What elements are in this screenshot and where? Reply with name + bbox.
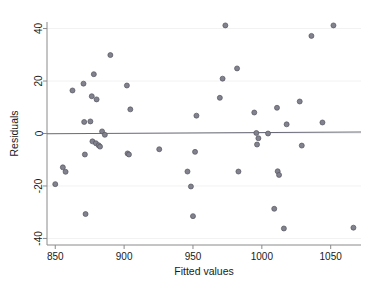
data-point bbox=[94, 97, 99, 102]
x-tick-label: 950 bbox=[185, 251, 202, 262]
data-point bbox=[309, 33, 314, 38]
data-point bbox=[98, 144, 103, 149]
data-point bbox=[299, 143, 304, 148]
y-tick-label: 40 bbox=[34, 23, 45, 35]
data-point bbox=[252, 110, 257, 115]
data-point bbox=[235, 66, 240, 71]
y-axis-title: Residuals bbox=[8, 110, 20, 156]
data-point bbox=[82, 119, 87, 124]
data-point bbox=[89, 94, 94, 99]
data-point bbox=[126, 152, 131, 157]
data-point bbox=[157, 147, 162, 152]
data-point bbox=[351, 225, 356, 230]
data-point bbox=[236, 169, 241, 174]
x-tick-label: 1000 bbox=[251, 251, 274, 262]
x-tick-label: 900 bbox=[116, 251, 133, 262]
data-point bbox=[190, 214, 195, 219]
data-point bbox=[108, 53, 113, 58]
data-point bbox=[297, 99, 302, 104]
data-point bbox=[91, 72, 96, 77]
data-point bbox=[70, 88, 75, 93]
y-tick-label: -20 bbox=[34, 178, 45, 193]
data-point bbox=[63, 169, 68, 174]
data-point bbox=[194, 113, 199, 118]
data-point bbox=[277, 172, 282, 177]
x-tick-label: 1050 bbox=[320, 251, 343, 262]
data-point bbox=[256, 136, 261, 141]
data-point bbox=[60, 165, 65, 170]
data-point bbox=[128, 107, 133, 112]
y-tick-label: -40 bbox=[34, 231, 45, 246]
y-tick-label: 0 bbox=[34, 130, 45, 136]
data-point bbox=[124, 83, 129, 88]
data-point bbox=[266, 131, 271, 136]
data-point bbox=[272, 206, 277, 211]
data-point bbox=[274, 105, 279, 110]
data-point bbox=[188, 184, 193, 189]
data-point bbox=[53, 182, 58, 187]
data-point bbox=[284, 122, 289, 127]
data-point bbox=[83, 212, 88, 217]
data-point bbox=[220, 76, 225, 81]
data-point bbox=[81, 81, 86, 86]
data-point bbox=[217, 95, 222, 100]
data-point bbox=[255, 142, 260, 147]
data-point bbox=[193, 149, 198, 154]
data-point bbox=[82, 152, 87, 157]
data-point bbox=[102, 132, 107, 137]
y-tick-label: 20 bbox=[34, 75, 45, 87]
data-point bbox=[281, 226, 286, 231]
data-point bbox=[223, 23, 228, 28]
x-axis-title: Fitted values bbox=[174, 265, 234, 277]
data-point bbox=[320, 120, 325, 125]
data-point bbox=[185, 169, 190, 174]
data-point bbox=[88, 119, 93, 124]
data-point bbox=[331, 23, 336, 28]
residuals-vs-fitted-plot: -40-200204085090095010001050Fitted value… bbox=[0, 0, 383, 294]
data-point bbox=[254, 130, 259, 135]
scatter-plot-svg: -40-200204085090095010001050Fitted value… bbox=[0, 0, 383, 294]
x-tick-label: 850 bbox=[47, 251, 64, 262]
